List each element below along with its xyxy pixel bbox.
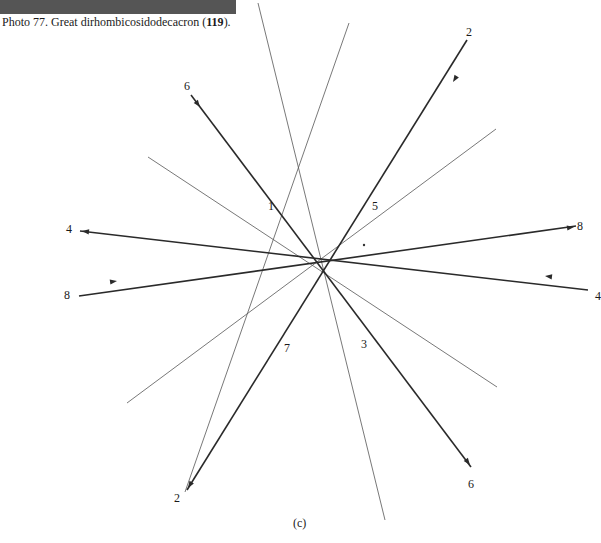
light-d <box>127 129 496 403</box>
label-e6-top: 6 <box>184 80 190 92</box>
light-b <box>185 23 349 492</box>
line-2 <box>187 40 467 490</box>
heavy-lines <box>79 40 588 490</box>
label-e2-bottom: 2 <box>174 492 180 504</box>
label-e8-left: 8 <box>64 289 70 301</box>
label-v3: 3 <box>361 338 367 350</box>
label-v7: 7 <box>284 342 290 354</box>
label-e2-top: 2 <box>466 26 472 38</box>
stray-dot <box>363 244 365 246</box>
line-6 <box>191 95 471 467</box>
label-v5: 5 <box>372 200 378 212</box>
label-v1: 1 <box>268 200 274 212</box>
label-e4-right: 4 <box>595 290 601 302</box>
figure-label: (c) <box>293 517 306 529</box>
arrowhead-icon <box>545 274 552 279</box>
arrowhead-icon <box>453 75 459 82</box>
label-e6-bottom: 6 <box>468 478 474 490</box>
arrowhead-icon <box>110 279 117 284</box>
label-e8-right: 8 <box>577 220 583 232</box>
label-e4-left: 4 <box>66 223 72 235</box>
